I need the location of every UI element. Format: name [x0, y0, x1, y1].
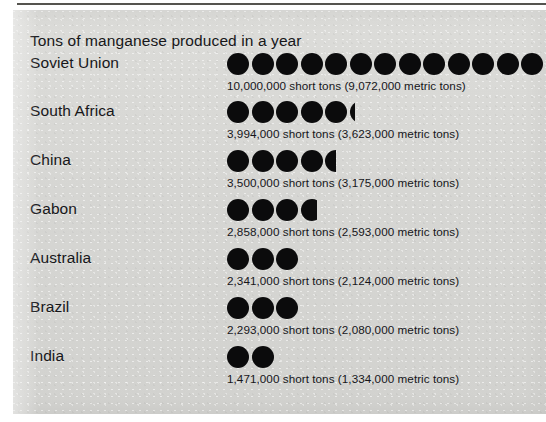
page-top-rule — [17, 3, 546, 5]
filled-circle-icon — [252, 199, 274, 221]
partial-circle-icon — [301, 199, 318, 221]
filled-circle-icon — [276, 101, 298, 123]
filled-circle-icon — [325, 101, 347, 123]
filled-circle-icon — [276, 199, 298, 221]
pictograph-row: Brazil2,293,000 short tons (2,080,000 me… — [13, 298, 546, 346]
filled-circle-icon — [252, 346, 274, 368]
filled-circle-icon — [301, 101, 323, 123]
filled-circle-icon — [472, 53, 494, 75]
pictograph-row: Gabon2,858,000 short tons (2,593,000 met… — [13, 200, 546, 248]
pictograph-row: China3,500,000 short tons (3,175,000 met… — [13, 151, 546, 199]
filled-circle-icon — [374, 53, 396, 75]
filled-circle-icon — [399, 53, 421, 75]
filled-circle-icon — [301, 150, 323, 172]
icon-group — [227, 149, 339, 173]
pictograph-row: Australia2,341,000 short tons (2,124,000… — [13, 249, 546, 297]
pictograph-row: South Africa3,994,000 short tons (3,623,… — [13, 102, 546, 150]
country-label: Australia — [30, 249, 91, 267]
row-value-text: 3,500,000 short tons (3,175,000 metric t… — [227, 176, 459, 189]
filled-circle-icon — [227, 297, 249, 319]
filled-circle-icon — [227, 101, 249, 123]
row-value-text: 2,858,000 short tons (2,593,000 metric t… — [227, 225, 459, 238]
filled-circle-icon — [252, 248, 274, 270]
icon-group — [227, 198, 320, 222]
paper-background: Tons of manganese produced in a year Sov… — [13, 10, 546, 414]
icon-group — [227, 247, 301, 271]
filled-circle-icon — [252, 150, 274, 172]
filled-circle-icon — [227, 248, 249, 270]
pictograph-row: Soviet Union10,000,000 short tons (9,072… — [13, 54, 546, 102]
filled-circle-icon — [252, 101, 274, 123]
chart-title: Tons of manganese produced in a year — [30, 32, 302, 50]
filled-circle-icon — [227, 53, 249, 75]
country-label: China — [30, 151, 71, 169]
row-value-text: 10,000,000 short tons (9,072,000 metric … — [227, 79, 466, 92]
filled-circle-icon — [521, 53, 543, 75]
filled-circle-icon — [276, 297, 298, 319]
filled-circle-icon — [227, 199, 249, 221]
pictograph-row: India1,471,000 short tons (1,334,000 met… — [13, 347, 546, 395]
icon-group — [227, 100, 358, 124]
filled-circle-icon — [276, 248, 298, 270]
filled-circle-icon — [301, 53, 323, 75]
filled-circle-icon — [497, 53, 519, 75]
country-label: South Africa — [30, 102, 115, 120]
icon-group — [227, 52, 546, 76]
row-value-text: 2,293,000 short tons (2,080,000 metric t… — [227, 323, 459, 336]
filled-circle-icon — [276, 150, 298, 172]
row-value-text: 2,341,000 short tons (2,124,000 metric t… — [227, 274, 459, 287]
filled-circle-icon — [252, 297, 274, 319]
country-label: Gabon — [30, 200, 77, 218]
filled-circle-icon — [276, 53, 298, 75]
filled-circle-icon — [448, 53, 470, 75]
filled-circle-icon — [325, 53, 347, 75]
filled-circle-icon — [227, 346, 249, 368]
partial-circle-icon — [350, 101, 356, 123]
country-label: India — [30, 347, 64, 365]
country-label: Brazil — [30, 298, 69, 316]
filled-circle-icon — [227, 150, 249, 172]
filled-circle-icon — [423, 53, 445, 75]
filled-circle-icon — [350, 53, 372, 75]
filled-circle-icon — [252, 53, 274, 75]
manganese-pictograph-chart: Tons of manganese produced in a year Sov… — [13, 10, 546, 414]
icon-group — [227, 296, 301, 320]
row-value-text: 1,471,000 short tons (1,334,000 metric t… — [227, 372, 459, 385]
partial-circle-icon — [325, 150, 336, 172]
country-label: Soviet Union — [30, 54, 119, 72]
row-value-text: 3,994,000 short tons (3,623,000 metric t… — [227, 127, 459, 140]
pictograph-page: Tons of manganese produced in a year Sov… — [0, 0, 546, 422]
icon-group — [227, 345, 276, 369]
